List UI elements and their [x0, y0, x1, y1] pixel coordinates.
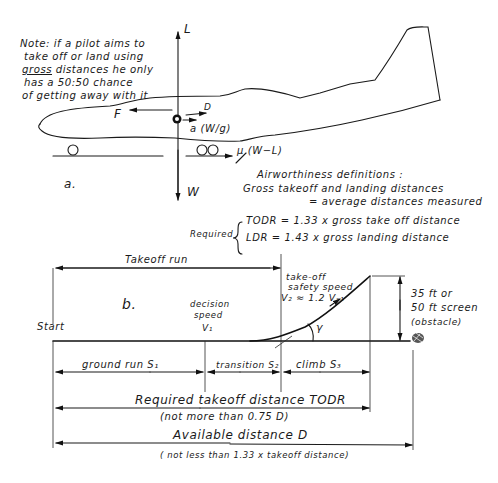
- todr-definition: TODR = 1.33 x gross take off distance: [246, 215, 460, 227]
- note-line-2: take off or land using: [24, 51, 144, 63]
- part-a-label: a.: [64, 178, 76, 190]
- note-line-4: has a 50:50 chance: [24, 77, 133, 89]
- takeoff-run-label: Takeoff run: [125, 254, 188, 266]
- ground-run-label: ground run S₁: [82, 359, 159, 371]
- transition-label: transition S₂: [216, 359, 279, 371]
- friction-label: μ (W−L): [237, 145, 282, 157]
- note-line-1: Note: if a pilot aims to: [20, 38, 145, 50]
- part-b-label: b.: [122, 298, 137, 310]
- decision-speed-line-2: speed: [194, 309, 223, 321]
- available-distance-sublabel: ( not less than 1.33 x takeoff distance): [160, 449, 349, 461]
- available-distance-label: Available distance D: [173, 429, 308, 441]
- obstacle-icon: [412, 333, 424, 343]
- definitions-heading: Airworthiness definitions :: [257, 169, 403, 181]
- obstacle-line-3: (obstacle): [411, 316, 462, 328]
- thrust-label: F: [114, 108, 122, 120]
- drag-label: D: [204, 101, 212, 113]
- gross-definition-line-1: Gross takeoff and landing distances: [243, 183, 444, 195]
- required-brace: [233, 222, 242, 254]
- landing-gear: [53, 145, 246, 163]
- start-label: Start: [37, 321, 64, 333]
- ldr-definition: LDR = 1.43 x gross landing distance: [246, 232, 449, 244]
- obstacle-line-2: 50 ft screen: [411, 302, 478, 314]
- note-line-5: of getting away with it: [22, 90, 148, 102]
- note-line-3-rest: distances he only: [52, 64, 153, 75]
- note-line-3: gross distances he only: [22, 64, 153, 76]
- v1-label: V₁: [202, 322, 213, 334]
- todr-sublabel: (not more than 0.75 D): [160, 411, 289, 423]
- centre-of-gravity-symbol: [173, 115, 182, 124]
- acceleration-label: a (W/g): [190, 123, 231, 135]
- v2-label: V₂ ≈ 1.2 Vₛ₁: [281, 292, 345, 304]
- climb-label: climb S₃: [296, 359, 341, 371]
- gross-definition-line-2: = average distances measured: [309, 196, 482, 208]
- todr-label: Required takeoff distance TODR: [135, 394, 346, 406]
- obstacle-line-1: 35 ft or: [411, 288, 453, 300]
- required-label: Required: [190, 228, 233, 240]
- note-gross-underlined: gross: [22, 64, 52, 75]
- lift-label: L: [184, 23, 191, 35]
- available-arrow-right: [230, 444, 412, 445]
- drag-arrow: [186, 113, 206, 115]
- takeoff-landing-diagram: Note: if a pilot aims to take off or lan…: [0, 0, 498, 483]
- climb-angle-arc: [308, 324, 313, 341]
- weight-label: W: [187, 186, 199, 198]
- climb-angle-label: γ: [316, 322, 323, 334]
